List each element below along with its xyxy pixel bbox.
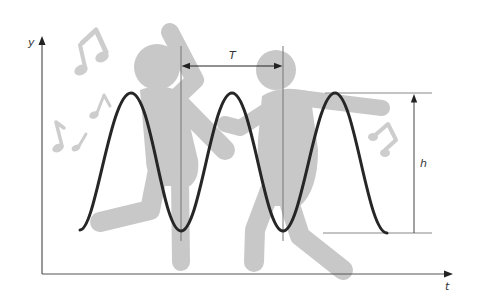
oscillation-diagram: y t T h bbox=[0, 0, 478, 297]
period-label: T bbox=[229, 50, 236, 61]
x-axis-label: t bbox=[445, 281, 449, 292]
music-note-small bbox=[88, 95, 110, 120]
music-note-large bbox=[73, 30, 111, 77]
music-note-tiny bbox=[71, 134, 86, 153]
music-note-right bbox=[368, 124, 396, 157]
height-label: h bbox=[420, 158, 427, 169]
y-axis-label: y bbox=[28, 37, 35, 48]
x-axis bbox=[42, 271, 453, 278]
y-axis bbox=[39, 36, 46, 274]
dancer-silhouette-right bbox=[225, 50, 382, 270]
music-note-left bbox=[51, 122, 65, 154]
